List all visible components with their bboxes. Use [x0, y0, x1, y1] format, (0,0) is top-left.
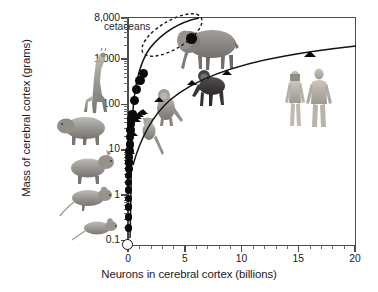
figure-scatter-cortex-neurons: Mass of cerebral cortex (grams) Neurons … — [0, 0, 378, 292]
cetaceans-ellipse — [136, 5, 209, 64]
trendline-primate — [133, 46, 356, 165]
data-point-primate — [128, 131, 138, 136]
data-point-non-primate — [125, 213, 132, 220]
data-point-non-primate — [125, 224, 132, 231]
data-point-primate — [222, 70, 232, 75]
data-point-primate — [154, 97, 164, 102]
data-point-non-primate — [125, 203, 132, 210]
data-point-non-primate — [125, 186, 132, 193]
cetaceans-annotation-label: cetaceans — [104, 21, 150, 32]
trendline-non-primate — [130, 18, 199, 238]
data-point-elephant — [186, 33, 196, 43]
data-point-human — [304, 51, 316, 57]
data-point-primate — [138, 109, 148, 114]
data-point-non-primate — [132, 85, 141, 94]
data-point-primate — [187, 80, 197, 85]
data-point-primate — [125, 149, 135, 154]
